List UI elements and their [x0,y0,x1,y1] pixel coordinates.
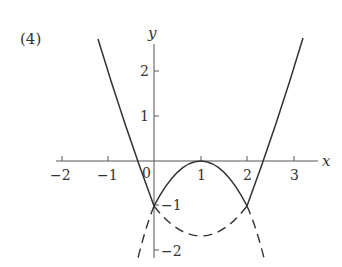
y-tick-label: −2 [161,243,182,259]
x-tick-label: 3 [290,167,299,183]
axes [56,44,318,258]
dashed-left-extension [138,206,154,258]
x-tick-label: 1 [197,167,206,183]
y-tick-label: 2 [140,63,149,79]
y-tick-label: 1 [140,108,149,124]
x-axis-label: x [322,152,331,170]
dashed-right-extension [247,206,264,258]
y-axis-label: y [147,24,157,42]
graph-figure: (4) x y 0 −2 −1 1 2 3 2 1 −1 −2 [0,0,342,267]
x-tick-label: 2 [243,167,252,183]
x-tick-label: −1 [97,167,118,183]
x-tick-label: −2 [50,167,71,183]
y-tick-label: −1 [161,197,182,213]
figure-label: (4) [20,30,41,48]
